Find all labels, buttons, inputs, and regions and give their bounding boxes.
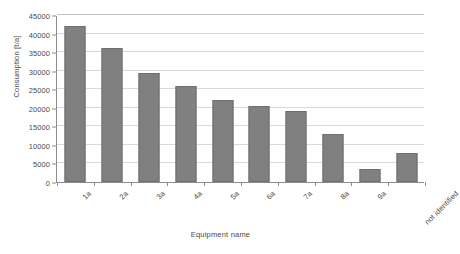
bar — [249, 106, 270, 182]
x-axis-tick-mark — [425, 182, 426, 186]
x-axis-tick-label: 9a — [375, 189, 387, 201]
bar-series — [57, 16, 424, 182]
bar — [322, 134, 343, 182]
y-axis-tick-label: 20000 — [29, 104, 50, 113]
y-axis-tick-labels: 0500010000150002000025000300003500040000… — [0, 16, 56, 183]
bar — [286, 111, 307, 182]
bar — [212, 100, 233, 182]
y-axis-tick-label: 40000 — [29, 30, 50, 39]
bar-slot — [167, 16, 204, 182]
x-axis-tick-label: 6a — [265, 189, 277, 201]
y-axis-tick-label: 5000 — [33, 160, 50, 169]
bar-slot — [278, 16, 315, 182]
bar — [396, 153, 417, 182]
bar-slot — [388, 16, 425, 182]
bar-slot — [241, 16, 278, 182]
bar — [175, 86, 196, 182]
y-axis-tick-label: 0 — [46, 179, 50, 188]
bar — [102, 48, 123, 182]
x-axis-tick-label: 7a — [302, 189, 314, 201]
x-axis-tick-label: 2a — [118, 189, 130, 201]
x-axis-tick-label: 4a — [191, 189, 203, 201]
x-axis-tick-label: not identified — [422, 189, 459, 226]
y-axis-tick-label: 45000 — [29, 12, 50, 21]
plot-area — [56, 16, 424, 183]
bar — [359, 169, 380, 182]
x-axis-tick-label: 1a — [81, 189, 93, 201]
y-axis-tick-label: 10000 — [29, 141, 50, 150]
y-axis-tick-label: 25000 — [29, 86, 50, 95]
bar — [65, 26, 86, 182]
bar-slot — [57, 16, 94, 182]
y-axis-tick-label: 30000 — [29, 67, 50, 76]
bar — [138, 73, 159, 182]
x-axis-title: Equipment name — [0, 230, 441, 239]
bar-slot — [94, 16, 131, 182]
bar-slot — [315, 16, 352, 182]
x-axis-tick-label: 8a — [339, 189, 351, 201]
y-axis-tick-label: 15000 — [29, 123, 50, 132]
y-axis-tick-label: 35000 — [29, 49, 50, 58]
x-axis-tick-label: 5a — [228, 189, 240, 201]
bar-slot — [204, 16, 241, 182]
x-axis-tick-label: 3a — [155, 189, 167, 201]
bar-slot — [351, 16, 388, 182]
bar-slot — [131, 16, 168, 182]
gridline — [57, 14, 424, 15]
